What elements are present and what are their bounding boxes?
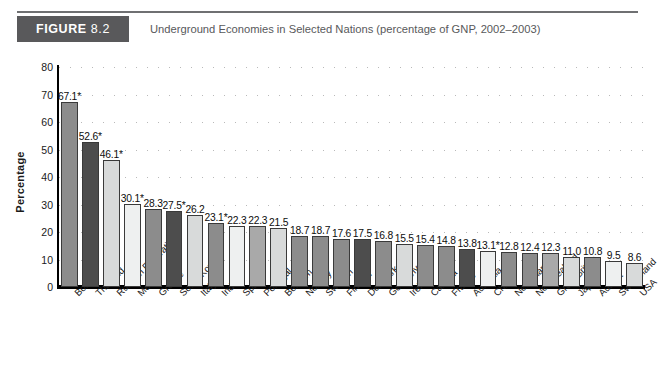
bar-column[interactable]: 11.0Japan bbox=[561, 0, 582, 287]
y-axis-title: Percentage bbox=[14, 132, 26, 232]
bar-value-label: 13.8 bbox=[457, 238, 476, 249]
bar-value-label: 18.7 bbox=[290, 225, 309, 236]
bar-column[interactable]: 9.5Switzerland bbox=[603, 0, 624, 287]
y-tick-label: 30 bbox=[33, 199, 53, 211]
bar[interactable]: 28.3 bbox=[145, 209, 162, 287]
bar-value-label: 17.5 bbox=[353, 228, 372, 239]
bar-value-label: 10.8 bbox=[583, 246, 602, 257]
y-tick-label: 0 bbox=[33, 281, 53, 293]
bar-value-label: 12.4 bbox=[520, 242, 539, 253]
y-tick-label: 80 bbox=[33, 61, 53, 73]
y-tick-label: 20 bbox=[33, 226, 53, 238]
bar-column[interactable]: 18.7Sweden bbox=[310, 0, 331, 287]
bar[interactable]: 67.1* bbox=[61, 102, 78, 287]
bar-value-label: 23.1* bbox=[204, 212, 227, 223]
y-tick-label: 70 bbox=[33, 89, 53, 101]
bar-value-label: 26.2 bbox=[185, 204, 204, 215]
bar[interactable]: 14.8 bbox=[438, 246, 455, 287]
bar[interactable]: 13.8 bbox=[459, 249, 476, 287]
bar-column[interactable]: 15.4Canada bbox=[415, 0, 436, 287]
bar-value-label: 12.8 bbox=[499, 241, 518, 252]
bar[interactable]: 16.8 bbox=[375, 241, 392, 287]
bar-value-label: 16.8 bbox=[374, 230, 393, 241]
y-tick-label: 10 bbox=[33, 254, 53, 266]
bar[interactable]: 21.5 bbox=[270, 228, 287, 287]
bar-column[interactable]: 26.2Italy bbox=[185, 0, 206, 287]
bar[interactable]: 17.6 bbox=[333, 239, 350, 287]
bar-value-label: 14.8 bbox=[437, 235, 456, 246]
bar[interactable]: 15.4 bbox=[417, 245, 434, 287]
bar[interactable]: 12.4 bbox=[522, 253, 539, 287]
bar[interactable]: 10.8 bbox=[584, 257, 601, 287]
bar-column[interactable]: 12.4New Zealand bbox=[519, 0, 540, 287]
bar-series: 67.1*Bolivia52.6*Thailand46.1*Russian Fe… bbox=[59, 0, 645, 287]
bar-column[interactable]: 10.8Austria bbox=[582, 0, 603, 287]
bar-column[interactable]: 67.1*Bolivia bbox=[59, 0, 80, 287]
y-tick-label: 50 bbox=[33, 144, 53, 156]
bar[interactable]: 22.3 bbox=[229, 226, 246, 287]
bar-column[interactable]: 16.8Germany bbox=[373, 0, 394, 287]
bar-column[interactable]: 13.8Australia bbox=[457, 0, 478, 287]
bar-column[interactable]: 17.5Denmark bbox=[352, 0, 373, 287]
bar-column[interactable]: 12.3Great Britain bbox=[540, 0, 561, 287]
bar[interactable]: 46.1* bbox=[103, 160, 120, 287]
bar-column[interactable]: 8.6USA bbox=[624, 0, 645, 287]
bar-value-label: 22.3 bbox=[227, 215, 246, 226]
bar-column[interactable]: 17.6Finland bbox=[331, 0, 352, 287]
bar[interactable]: 13.1* bbox=[480, 251, 497, 287]
bar[interactable]: 9.5 bbox=[605, 261, 622, 287]
bar[interactable]: 18.7 bbox=[291, 236, 308, 287]
bar[interactable]: 52.6* bbox=[82, 142, 99, 287]
y-tick-label: 40 bbox=[33, 171, 53, 183]
bar-column[interactable]: 12.8Netherlands bbox=[499, 0, 520, 287]
bar-column[interactable]: 52.6*Thailand bbox=[80, 0, 101, 287]
bar-value-label: 8.6 bbox=[628, 252, 642, 263]
bar-value-label: 13.1* bbox=[476, 240, 499, 251]
bar[interactable]: 22.3 bbox=[249, 226, 266, 287]
y-tick-label: 60 bbox=[33, 116, 53, 128]
bar-column[interactable]: 15.5Ireland bbox=[394, 0, 415, 287]
bar-value-label: 30.1* bbox=[121, 193, 144, 204]
bar-value-label: 12.3 bbox=[541, 242, 560, 253]
bar-column[interactable]: 27.5*South Korea bbox=[164, 0, 185, 287]
bar-column[interactable]: 13.1*China bbox=[478, 0, 499, 287]
y-axis-ticks: 01020304050607080 bbox=[29, 0, 53, 379]
bar[interactable]: 12.8 bbox=[501, 252, 518, 287]
bar-value-label: 28.3 bbox=[144, 198, 163, 209]
bar-value-label: 9.5 bbox=[607, 250, 621, 261]
bar-column[interactable]: 28.3Greece bbox=[143, 0, 164, 287]
bar-column[interactable]: 22.3Spain bbox=[226, 0, 247, 287]
bar[interactable]: 23.1* bbox=[208, 223, 225, 287]
bar-value-label: 21.5 bbox=[269, 217, 288, 228]
bar-column[interactable]: 30.1*Mexico bbox=[122, 0, 143, 287]
bar-value-label: 17.6 bbox=[332, 228, 351, 239]
bar[interactable]: 8.6 bbox=[626, 263, 643, 287]
bar-value-label: 67.1* bbox=[58, 91, 81, 102]
bar-column[interactable]: 18.7Norway bbox=[289, 0, 310, 287]
bar-value-label: 52.6* bbox=[79, 131, 102, 142]
bar-column[interactable]: 21.5Belgium bbox=[268, 0, 289, 287]
bar-column[interactable]: 46.1*Russian Federation bbox=[101, 0, 122, 287]
bar-column[interactable]: 22.3Portugal bbox=[247, 0, 268, 287]
bar-value-label: 15.5 bbox=[395, 233, 414, 244]
bar[interactable]: 30.1* bbox=[124, 204, 141, 287]
bar-column[interactable]: 14.8France bbox=[436, 0, 457, 287]
bar-column[interactable]: 23.1*India bbox=[206, 0, 227, 287]
bar[interactable]: 15.5 bbox=[396, 244, 413, 287]
bar[interactable]: 12.3 bbox=[542, 253, 559, 287]
bar-value-label: 46.1* bbox=[100, 149, 123, 160]
bar-value-label: 15.4 bbox=[416, 234, 435, 245]
bar[interactable]: 18.7 bbox=[312, 236, 329, 287]
bar[interactable]: 26.2 bbox=[187, 215, 204, 287]
bar-value-label: 18.7 bbox=[311, 225, 330, 236]
bar[interactable]: 27.5* bbox=[166, 211, 183, 287]
bar[interactable]: 17.5 bbox=[354, 239, 371, 287]
bar-value-label: 27.5* bbox=[163, 200, 186, 211]
bar[interactable]: 11.0 bbox=[563, 257, 580, 287]
bar-value-label: 22.3 bbox=[248, 215, 267, 226]
bar-value-label: 11.0 bbox=[562, 246, 580, 257]
